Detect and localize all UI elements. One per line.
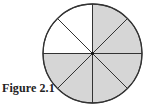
- figure-caption: Figure 2.1: [2, 81, 55, 96]
- center-point: [91, 52, 94, 55]
